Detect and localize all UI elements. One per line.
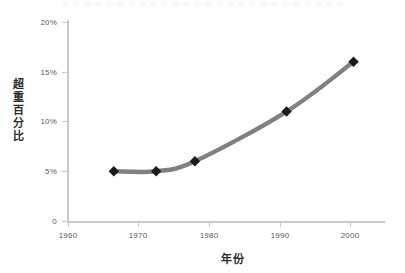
series-markers-group [109, 57, 359, 177]
data-point-marker [109, 166, 119, 176]
data-point-marker [151, 166, 161, 176]
plot-area [0, 0, 405, 273]
series-line-overweight [114, 62, 354, 172]
overweight-percentage-line-chart: 20% 15% 10% 5% 0 1960 1970 1980 1990 200… [0, 0, 405, 273]
